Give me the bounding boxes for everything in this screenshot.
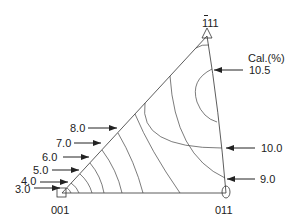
contour-label-9-0: 9.0: [260, 173, 275, 185]
legend-title-cal: Cal.(%): [248, 52, 285, 64]
pole-label-011: 011: [215, 204, 233, 216]
triangle-outline: [62, 36, 226, 193]
overbar-111: [204, 15, 208, 16]
pole-label-001: 001: [51, 204, 69, 216]
stereographic-triangle-figure: [0, 0, 296, 224]
arrows: [34, 70, 255, 188]
contour-lines: [67, 45, 225, 193]
pole-label-111: 111: [202, 17, 219, 29]
contour-label-3-0: 3.0: [15, 183, 30, 195]
square-marker-001: [57, 188, 66, 197]
contour-label-8-0: 8.0: [70, 122, 85, 134]
contour-label-10-5: 10.5: [249, 64, 270, 76]
contour-label-7-0: 7.0: [56, 137, 71, 149]
contour-label-10-0: 10.0: [261, 142, 282, 154]
contour-label-6-0: 6.0: [42, 151, 57, 163]
